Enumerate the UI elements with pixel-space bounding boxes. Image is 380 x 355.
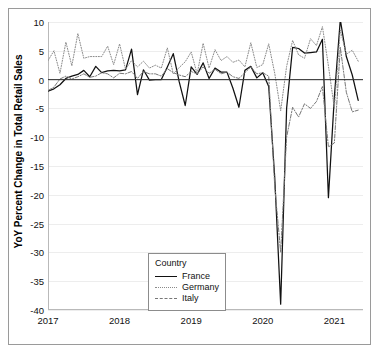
y-tick-label: -30 (30, 247, 44, 258)
y-tick-label: -40 (30, 305, 44, 316)
y-tick-label: 10 (33, 17, 44, 28)
legend-swatch-germany (155, 283, 177, 292)
y-tick-label: -35 (30, 276, 44, 287)
legend-item-germany: Germany (155, 282, 225, 293)
legend-label-germany: Germany (182, 282, 219, 293)
y-tick-label: -15 (30, 161, 44, 172)
y-tick-label: -5 (36, 103, 44, 114)
y-axis-tick-labels: 1050-5-10-15-20-25-30-35-40 (0, 22, 44, 310)
y-tick-label: 5 (39, 45, 44, 56)
legend-item-italy: Italy (155, 293, 225, 304)
y-tick-label: 0 (39, 74, 44, 85)
x-tick-label: 2019 (181, 315, 202, 326)
y-tick-label: -10 (30, 132, 44, 143)
y-tick-label: -25 (30, 218, 44, 229)
x-axis-tick-labels: 20172018201920202021 (48, 315, 363, 333)
legend-swatch-italy (155, 294, 177, 303)
chart-figure: YoY Percent Change in Total Retail Sales… (0, 0, 380, 355)
legend-title: Country (155, 258, 225, 269)
x-tick-label: 2017 (37, 315, 58, 326)
legend-label-france: France (182, 271, 210, 282)
chart-legend: Country France Germany Italy (148, 253, 226, 311)
x-tick-label: 2018 (109, 315, 130, 326)
legend-item-france: France (155, 271, 225, 282)
y-tick-label: -20 (30, 189, 44, 200)
x-tick-label: 2021 (324, 315, 345, 326)
x-tick-label: 2020 (252, 315, 273, 326)
series-line-italy (48, 47, 358, 252)
legend-swatch-france (155, 272, 177, 281)
plot-area: Country France Germany Italy (48, 22, 363, 310)
legend-label-italy: Italy (182, 293, 199, 304)
